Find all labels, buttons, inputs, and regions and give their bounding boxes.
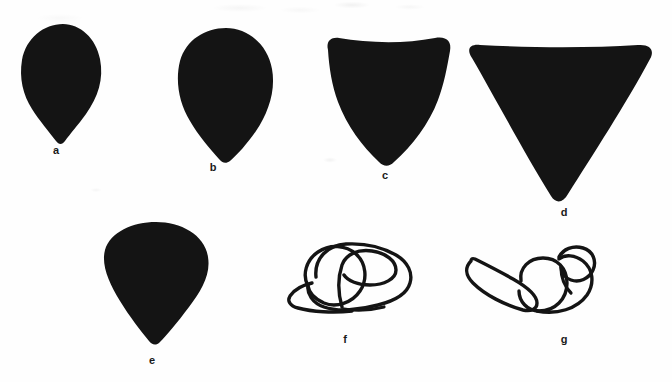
panel-label-c: c [375,170,395,181]
panel-label-f: f [335,334,355,345]
specimen-c [316,34,456,170]
shape-e-path [104,222,209,345]
shape-f-strokes [289,244,411,312]
panel-label-g: g [554,334,574,345]
specimen-e [101,219,213,347]
shape-c-path [327,38,450,166]
panel-label-e: e [142,355,162,366]
panel-label-b: b [203,162,223,173]
shape-a-path [21,24,101,144]
panel-label-a: a [46,145,66,156]
panel-label-d: d [554,207,574,218]
specimen-g [461,243,599,323]
figure-plate: a b c d e [0,0,672,382]
specimen-a [18,21,106,146]
specimen-d [458,42,658,210]
specimen-b [174,25,278,165]
shape-g-strokes [467,247,595,312]
shape-b-path [178,28,273,163]
shape-d-path [469,45,652,202]
specimen-f [286,241,414,321]
